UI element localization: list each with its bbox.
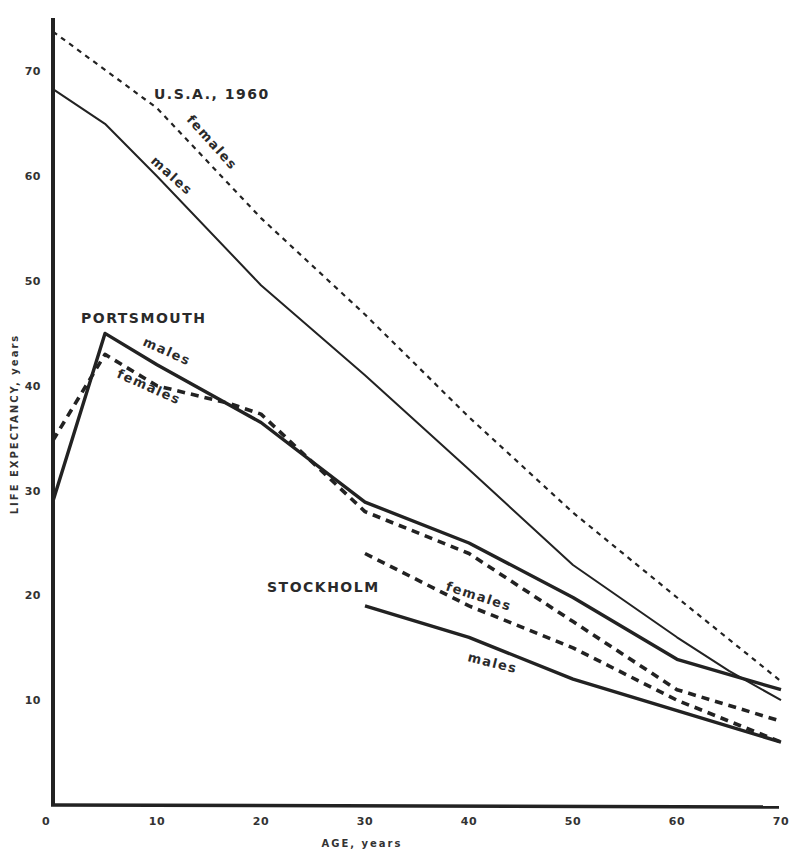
- x-tick-labels: 010203040506070: [42, 815, 789, 828]
- group-label-usa: U.S.A., 1960: [154, 86, 270, 102]
- y-tick-10: 10: [25, 694, 41, 707]
- life-expectancy-chart: 010203040506070 10203040506070 AGE, year…: [0, 0, 799, 865]
- series-line-portsmouth-females: [53, 354, 781, 721]
- y-tick-40: 40: [25, 380, 41, 393]
- x-tick-30: 30: [357, 815, 373, 828]
- series-line-stockholm-males: [365, 606, 781, 742]
- x-tick-50: 50: [565, 815, 581, 828]
- x-tick-10: 10: [149, 815, 165, 828]
- y-tick-30: 30: [25, 485, 41, 498]
- line-label-usa-females: females: [184, 112, 241, 173]
- y-tick-60: 60: [25, 170, 41, 183]
- x-tick-20: 20: [253, 815, 269, 828]
- x-tick-0: 0: [42, 815, 50, 828]
- y-axis-title: LIFE EXPECTANCY, years: [9, 334, 20, 515]
- y-tick-70: 70: [25, 65, 41, 78]
- y-tick-20: 20: [25, 589, 41, 602]
- y-tick-labels: 10203040506070: [25, 65, 41, 707]
- group-label-stockholm: STOCKHOLM: [267, 579, 380, 595]
- x-tick-60: 60: [669, 815, 685, 828]
- group-label-portsmouth: PORTSMOUTH: [81, 310, 206, 326]
- x-axis-title: AGE, years: [322, 838, 403, 849]
- y-tick-50: 50: [25, 275, 41, 288]
- x-tick-70: 70: [773, 815, 789, 828]
- x-tick-40: 40: [461, 815, 477, 828]
- x-axis: [51, 805, 779, 807]
- series-line-stockholm-females: [365, 554, 781, 743]
- line-label-portsmouth-males: males: [141, 334, 194, 368]
